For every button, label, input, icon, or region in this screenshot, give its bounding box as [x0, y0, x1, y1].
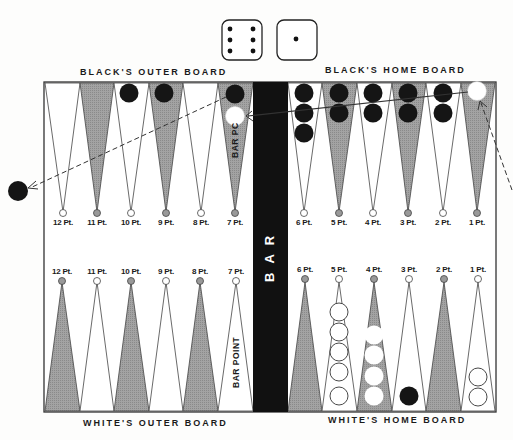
bottom-point-label-6: 6 Pt.: [288, 265, 322, 274]
black-checker: [120, 84, 139, 103]
top-point-label-10: 10 Pt.: [114, 218, 148, 227]
bar-point-bottom-label: BAR POINT: [231, 337, 241, 388]
top-point-label-3: 3 Pt.: [391, 218, 425, 227]
top-point-label-5: 5 Pt.: [322, 218, 356, 227]
off-board-black-checker: [8, 181, 28, 201]
bottom-point-label-12: 12 Pt.: [45, 267, 79, 276]
top-point-label-4: 4 Pt.: [356, 218, 390, 227]
white-outer-board-label: WHITE'S OUTER BOARD: [83, 418, 228, 428]
top-point-label-6: 6 Pt.: [287, 218, 321, 227]
bar-point-top-label: BAR PC: [230, 122, 240, 158]
top-point-label-1: 1 Pt.: [460, 218, 494, 227]
die-six: [222, 20, 262, 60]
top-point-label-8: 8 Pt.: [184, 218, 218, 227]
white-home-board-label: WHITE'S HOME BOARD: [328, 415, 466, 425]
bottom-point-label-9: 9 Pt.: [149, 267, 183, 276]
bar-label: BAR: [262, 227, 277, 282]
top-point-label-2: 2 Pt.: [426, 218, 460, 227]
bottom-point-label-10: 10 Pt.: [114, 267, 148, 276]
bottom-point-label-4: 4 Pt.: [357, 265, 391, 274]
black-checker: [226, 85, 245, 104]
black-checker: [155, 84, 174, 103]
top-point-label-9: 9 Pt.: [149, 218, 183, 227]
top-point-label-12: 12 Pt.: [46, 218, 80, 227]
bottom-point-label-2: 2 Pt.: [427, 265, 461, 274]
bottom-point-label-3: 3 Pt.: [392, 265, 426, 274]
bottom-point-label-8: 8 Pt.: [183, 267, 217, 276]
black-home-board-label: BLACK'S HOME BOARD: [325, 65, 466, 75]
bottom-point-label-1: 1 Pt.: [461, 265, 495, 274]
bottom-point-label-5: 5 Pt.: [322, 265, 356, 274]
die-one: [277, 20, 317, 60]
top-point-label-11: 11 Pt.: [80, 218, 114, 227]
bottom-point-label-11: 11 Pt.: [80, 267, 114, 276]
white-checker-1pt: [468, 82, 487, 101]
top-point-label-7: 7 Pt.: [218, 218, 252, 227]
bottom-point-label-7: 7 Pt.: [219, 267, 253, 276]
black-outer-board-label: BLACK'S OUTER BOARD: [80, 67, 227, 77]
